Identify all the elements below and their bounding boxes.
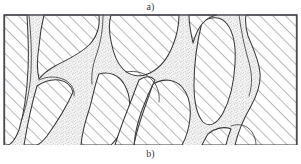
figure-caption-b: b)	[0, 148, 301, 159]
figure-root: a)	[0, 0, 301, 164]
figure-plate	[3, 14, 298, 145]
microstructure-diagram	[3, 14, 298, 145]
figure-caption-a: a)	[0, 1, 301, 12]
